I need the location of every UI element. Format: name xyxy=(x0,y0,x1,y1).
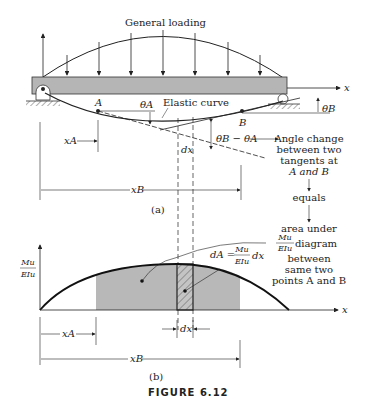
frac-num: Mu xyxy=(277,233,291,242)
dA-rhs: dx xyxy=(252,250,264,261)
shaded-area xyxy=(96,264,240,310)
loading-label: General loading xyxy=(125,17,207,28)
part-b-caption: (b) xyxy=(149,371,163,382)
explanation-line: diagram xyxy=(295,238,338,249)
explanation-line: same two xyxy=(285,264,333,275)
ground-left xyxy=(26,101,60,106)
beam xyxy=(32,77,287,94)
dx-label-a: dx xyxy=(181,144,193,155)
figure-caption: FIGURE 6.12 xyxy=(148,387,229,398)
point-b-label: B xyxy=(238,117,246,128)
equals-label: equals xyxy=(292,192,325,203)
explanation-line: A and B xyxy=(288,166,329,177)
point-a-label: A xyxy=(94,97,102,108)
theta-a-label: θA xyxy=(140,99,153,110)
elastic-curve-label: Elastic curve xyxy=(163,97,229,108)
x-axis-a-label: x xyxy=(344,82,350,93)
x-a-label-a: xA xyxy=(64,135,77,146)
load-envelope xyxy=(43,36,285,79)
explanation-line: between xyxy=(287,253,331,264)
explanation-line: tangents at xyxy=(280,155,338,166)
x-a-label-b: xA xyxy=(62,328,75,339)
y-axis-num: Mu xyxy=(20,258,34,267)
figure-canvas: x θA Elastic curve θB A B θB − θA dx xyxy=(0,0,371,405)
x-b-label-b: xB xyxy=(130,353,143,364)
theta-diff-label: θB − θA xyxy=(216,133,257,144)
explanation-line: between two xyxy=(277,144,342,155)
y-axis-den: EIu xyxy=(20,270,35,279)
dA-num: Mu xyxy=(234,245,248,254)
dx-strip xyxy=(177,264,193,310)
dA-lhs: dA = xyxy=(210,249,235,260)
dA-den: EIu xyxy=(234,257,249,266)
ground-right xyxy=(268,104,300,109)
part-a-caption: (a) xyxy=(151,204,165,215)
x-axis-b-label: x xyxy=(342,304,348,315)
explanation-line: Angle change xyxy=(273,133,343,144)
x-b-label-a: xB xyxy=(131,184,144,195)
dx-label-b: dx xyxy=(180,323,192,334)
theta-b-label: θB xyxy=(322,103,335,114)
frac-den: EIu xyxy=(277,244,292,253)
explanation-line: points A and B xyxy=(272,275,346,286)
explanation: Angle change between two tangents at A a… xyxy=(272,133,346,286)
